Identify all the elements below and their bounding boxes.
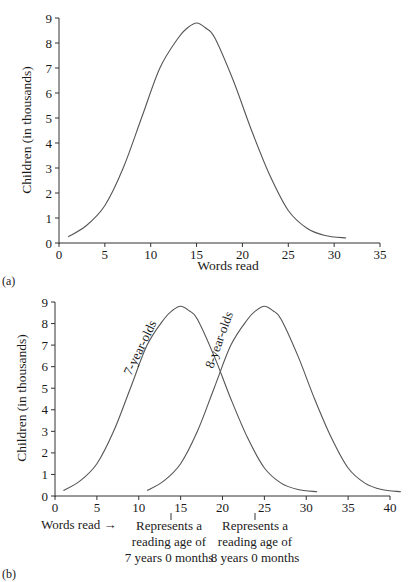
x-tick-label: 30 <box>300 500 313 515</box>
y-tick-label: 9 <box>46 11 53 26</box>
y-tick-label: 9 <box>42 295 49 310</box>
x-tick-label: 10 <box>132 500 145 515</box>
panel-label-a: (a) <box>2 274 15 288</box>
y-tick-label: 0 <box>42 489 49 504</box>
x-tick-label: 35 <box>374 247 387 262</box>
y-tick-label: 0 <box>46 236 53 251</box>
y-tick-label: 7 <box>46 61 53 76</box>
chart-b-curve-7-year-olds <box>63 306 317 491</box>
y-tick-label: 8 <box>42 316 49 331</box>
chart-b-curve-8-year-olds <box>147 306 401 491</box>
x-tick-label: 5 <box>102 247 109 262</box>
x-tick-label: 0 <box>56 247 63 262</box>
chart-b-xlabel: Words read → <box>41 517 117 532</box>
y-tick-label: 1 <box>46 211 53 226</box>
x-tick-label: 20 <box>216 500 229 515</box>
y-tick-label: 3 <box>42 424 49 439</box>
y-tick-label: 5 <box>46 111 53 126</box>
y-tick-label: 6 <box>42 359 49 374</box>
figure: 012345678905101520253035 Words read Chil… <box>0 0 410 582</box>
x-tick-label: 35 <box>342 500 355 515</box>
y-tick-label: 3 <box>46 161 53 176</box>
x-tick-label: 25 <box>258 500 271 515</box>
x-tick-label: 25 <box>282 247 295 262</box>
x-tick-label: 15 <box>174 500 187 515</box>
y-tick-label: 1 <box>42 467 49 482</box>
x-tick-label: 30 <box>328 247 341 262</box>
chart-a-xlabel: Words read <box>197 258 259 273</box>
y-tick-label: 4 <box>42 402 49 417</box>
chart-a-curve <box>68 23 346 238</box>
annotation-8-line2: reading age of <box>218 534 293 549</box>
chart-b-ylabel: Children (in thousands) <box>14 334 29 462</box>
y-tick-label: 6 <box>46 86 53 101</box>
y-tick-label: 2 <box>46 186 53 201</box>
x-tick-label: 0 <box>52 500 59 515</box>
y-tick-label: 8 <box>46 36 53 51</box>
x-tick-label: 10 <box>144 247 157 262</box>
annotation-7-line1: Represents a <box>136 518 202 533</box>
annotation-7-line3: 7 years 0 months <box>125 550 213 565</box>
chart-a: 012345678905101520253035 Words read Chil… <box>2 11 387 289</box>
chart-a-ticks: 012345678905101520253035 <box>46 11 387 263</box>
annotation-8-line3: 8 years 0 months <box>211 550 299 565</box>
y-tick-label: 5 <box>42 381 49 396</box>
chart-b: 01234567890510152025303540 7-year-olds 8… <box>2 295 401 582</box>
y-tick-label: 4 <box>46 136 53 151</box>
annotation-8-line1: Represents a <box>222 518 288 533</box>
chart-a-axes <box>59 18 380 244</box>
chart-a-ylabel: Children (in thousands) <box>19 66 34 194</box>
y-tick-label: 2 <box>42 445 49 460</box>
panel-label-b: (b) <box>2 567 16 581</box>
series-label-7-year-olds: 7-year-olds <box>120 318 159 378</box>
x-tick-label: 5 <box>94 500 101 515</box>
y-tick-label: 7 <box>42 338 49 353</box>
annotation-7-line2: reading age of <box>132 534 207 549</box>
x-tick-label: 40 <box>384 500 397 515</box>
